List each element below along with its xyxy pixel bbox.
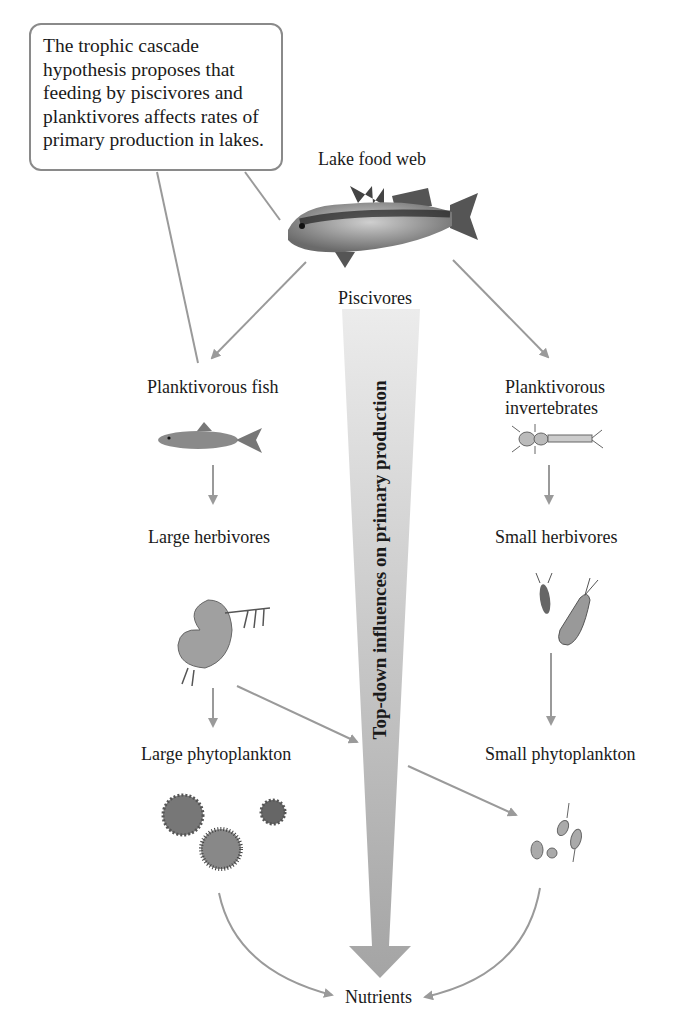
copepod-icon	[536, 573, 598, 645]
callout-connectors	[157, 172, 280, 363]
label-large-herbivores: Large herbivores	[148, 527, 270, 548]
insect-larva-icon	[512, 424, 603, 454]
top-down-arrow-label: Top-down influences on primary productio…	[369, 381, 391, 740]
label-piscivores: Piscivores	[338, 288, 412, 309]
small-phytoplankton-icon	[531, 803, 583, 862]
callout-line: primary production in lakes.	[43, 128, 271, 152]
callout-line: hypothesis proposes that	[43, 58, 271, 82]
minnow-fish-icon	[158, 422, 262, 453]
daphnia-icon	[178, 600, 270, 686]
callout-line: planktivores affects rates of	[43, 105, 271, 129]
label-planktivorous-invertebrates-1: Planktivorous	[505, 377, 605, 398]
diagram-title: Lake food web	[318, 149, 426, 170]
label-large-phytoplankton: Large phytoplankton	[141, 744, 291, 765]
label-planktivorous-fish: Planktivorous fish	[147, 377, 279, 398]
large-phytoplankton-icon	[163, 795, 285, 869]
label-small-phytoplankton: Small phytoplankton	[485, 744, 636, 765]
label-nutrients: Nutrients	[345, 987, 412, 1008]
hypothesis-callout: The trophic cascade hypothesis proposes …	[29, 23, 283, 171]
callout-line: feeding by piscivores and	[43, 81, 271, 105]
label-planktivorous-invertebrates-2: invertebrates	[505, 398, 598, 419]
bass-fish-icon	[288, 186, 478, 268]
label-small-herbivores: Small herbivores	[495, 527, 617, 548]
callout-line: The trophic cascade	[43, 34, 271, 58]
